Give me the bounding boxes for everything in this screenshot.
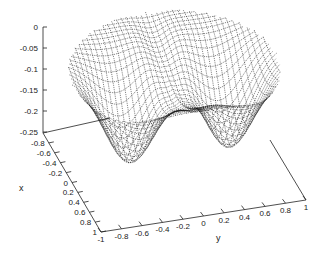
- x-tick-label: -0.4: [43, 159, 57, 168]
- surface-mesh: [68, 10, 280, 163]
- z-tick-label: -0.05: [20, 44, 39, 53]
- x-axis-title: x: [19, 183, 24, 193]
- y-axis-ticks: -1-0.8-0.6-0.4-0.200.20.40.60.81: [97, 196, 308, 244]
- y-tick-label: 0.4: [239, 213, 251, 222]
- x-tick-label: 0.6: [74, 208, 86, 217]
- x-tick-label: 0.2: [63, 188, 75, 197]
- y-tick-label: 0.8: [280, 206, 292, 215]
- x-tick-label: -0.6: [37, 149, 51, 158]
- x-axis-ticks: -0.8-0.6-0.4-0.200.20.40.60.81: [31, 139, 106, 237]
- z-tick-label: -0.2: [24, 107, 38, 116]
- axis-frame: [43, 27, 306, 232]
- z-tick-label: -0.25: [20, 128, 39, 137]
- z-tick-label: -0.15: [20, 86, 39, 95]
- y-tick-label: -0.4: [156, 225, 170, 234]
- x-tick-label: -0.8: [31, 139, 45, 148]
- x-tick-label: 0.8: [80, 218, 92, 227]
- y-axis-title: y: [216, 233, 221, 243]
- y-tick-label: 0: [201, 219, 206, 228]
- x-tick-label: 0: [64, 179, 69, 188]
- y-tick-label: 0.6: [259, 209, 271, 218]
- x-tick-label: -0.2: [48, 169, 62, 178]
- y-tick-label: -0.8: [115, 232, 129, 241]
- x-tick-label: 0.4: [68, 198, 80, 207]
- y-tick-label: -1: [97, 235, 105, 244]
- z-tick-label: 0: [34, 23, 39, 32]
- y-tick-label: -0.6: [135, 229, 149, 238]
- y-tick-label: -0.2: [176, 222, 190, 231]
- surface-plot: 0-0.05-0.1-0.15-0.2-0.25 -0.8-0.6-0.4-0.…: [0, 0, 324, 254]
- surface-wireframe: [68, 10, 280, 163]
- y-tick-label: 0.2: [218, 216, 230, 225]
- right-frame-line: [270, 140, 306, 200]
- y-tick-label: 1: [304, 203, 309, 212]
- z-tick-label: -0.1: [24, 65, 38, 74]
- back-frame-line: [43, 118, 110, 133]
